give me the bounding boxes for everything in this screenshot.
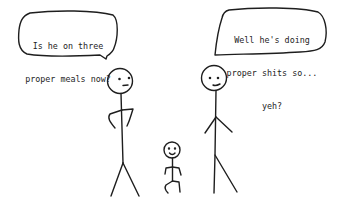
child-mouth: [170, 153, 176, 155]
left-adult-right-leg: [123, 163, 139, 196]
child-eye: [175, 148, 176, 149]
child-eye: [169, 148, 170, 149]
comic-panel: Is he on three proper meals now? Well he…: [0, 0, 344, 209]
left-adult-mouth: [123, 85, 128, 86]
left-adult-eye: [119, 78, 120, 79]
left-bubble-line: proper meals now?: [20, 74, 116, 85]
child-figure: [164, 142, 181, 193]
left-adult-left-leg: [111, 163, 123, 196]
right-bubble-line: Well he's doing: [220, 35, 324, 46]
right-adult-mouth: [213, 84, 220, 85]
left-bubble-line: Is he on three: [20, 41, 116, 52]
right-adult-left-arm: [205, 117, 216, 133]
right-bubble-line: yeh?: [220, 101, 324, 112]
right-bubble-line: proper shits so...: [220, 68, 324, 79]
left-bubble-text: Is he on three proper meals now?: [20, 19, 116, 107]
child-left-arm: [165, 167, 173, 174]
child-right-arm: [173, 167, 182, 175]
left-adult-left-arm: [109, 110, 122, 128]
right-adult-eye: [209, 77, 210, 78]
left-adult-body: [121, 94, 123, 164]
child-right-leg: [173, 181, 181, 192]
right-adult-right-leg: [215, 155, 237, 192]
child-head: [164, 142, 180, 158]
child-left-leg: [165, 181, 172, 193]
right-adult-body: [214, 91, 216, 194]
left-adult-eye: [128, 77, 129, 78]
right-bubble-text: Well he's doing proper shits so... yeh?: [220, 13, 324, 134]
right-adult-eye: [217, 77, 218, 78]
left-adult-right-arm: [122, 109, 133, 126]
